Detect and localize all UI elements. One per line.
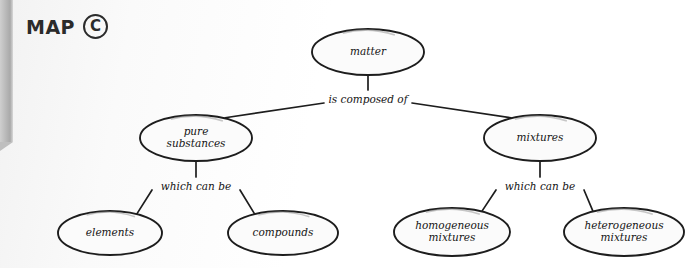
link-label-which-can-be-left: which can be (161, 180, 231, 192)
concept-map-page: MAP C matterpuresubstancesmixtureselemen… (0, 0, 693, 268)
node-label: substances (167, 137, 227, 149)
node-label: matter (350, 45, 387, 57)
connector-mixtures-to-heterogeneous-mixtures (584, 190, 593, 211)
node-label: heterogeneous (584, 219, 664, 231)
link-label-which-can-be-right: which can be (505, 180, 575, 192)
node-label: mixtures (517, 131, 564, 143)
node-elements[interactable]: elements (58, 211, 162, 255)
node-label: homogeneous (415, 219, 489, 231)
node-matter[interactable]: matter (312, 29, 424, 75)
node-label: elements (86, 226, 135, 238)
node-heterogeneous-mixtures[interactable]: heterogeneousmixtures (564, 208, 684, 256)
link-label-is-composed-of: is composed of (328, 93, 409, 105)
node-label: pure (184, 125, 209, 137)
node-label: mixtures (429, 231, 476, 243)
connector-pure-substances-to-elements (137, 190, 152, 214)
node-mixtures[interactable]: mixtures (484, 115, 596, 161)
concept-map-diagram: matterpuresubstancesmixtureselementscomp… (0, 0, 693, 268)
connector-pure-substances-to-compounds (240, 190, 254, 214)
connector-mixtures-to-homogeneous-mixtures (482, 190, 496, 211)
nodes-layer: matterpuresubstancesmixtureselementscomp… (58, 29, 684, 256)
node-homogeneous-mixtures[interactable]: homogeneousmixtures (394, 208, 510, 256)
node-label: compounds (253, 226, 314, 238)
node-compounds[interactable]: compounds (228, 211, 338, 255)
connector-matter-to-pure-substances (225, 103, 324, 118)
node-label: mixtures (601, 231, 648, 243)
node-pure-substances[interactable]: puresubstances (140, 115, 252, 161)
connector-matter-to-mixtures (412, 103, 511, 118)
